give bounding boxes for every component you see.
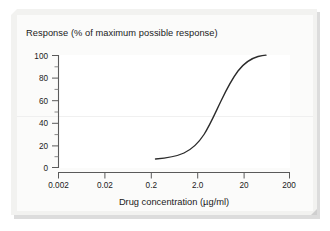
y-tick-label-100: 100: [34, 52, 48, 61]
y-tick-label-80: 80: [39, 74, 49, 83]
y-tick-label-40: 40: [39, 119, 49, 128]
plot-area-background: [58, 55, 290, 168]
y-axis-major-ticks: [52, 56, 59, 168]
x-tick-label-2-0: 2.0: [192, 181, 204, 190]
y-tick-label-0: 0: [43, 164, 48, 173]
figure-root: Response (% of maximum possible response…: [0, 0, 330, 231]
y-tick-label-20: 20: [39, 142, 49, 151]
y-axis-minor-ticks: [55, 67, 59, 157]
x-tick-label-0-02: 0.02: [97, 181, 113, 190]
x-tick-label-20: 20: [240, 181, 250, 190]
x-tick-label-0-2: 0.2: [146, 181, 158, 190]
x-tick-label-200: 200: [282, 181, 296, 190]
x-tick-label-0-002: 0.002: [48, 181, 69, 190]
x-axis-ticks: [59, 173, 290, 179]
y-tick-label-60: 60: [39, 97, 49, 106]
x-axis-title: Drug concentration (µg/ml): [119, 197, 229, 207]
dose-response-chart: 100 80 60 40 20 0 0.002 0.02 0.2 2.0 20 …: [0, 0, 330, 231]
